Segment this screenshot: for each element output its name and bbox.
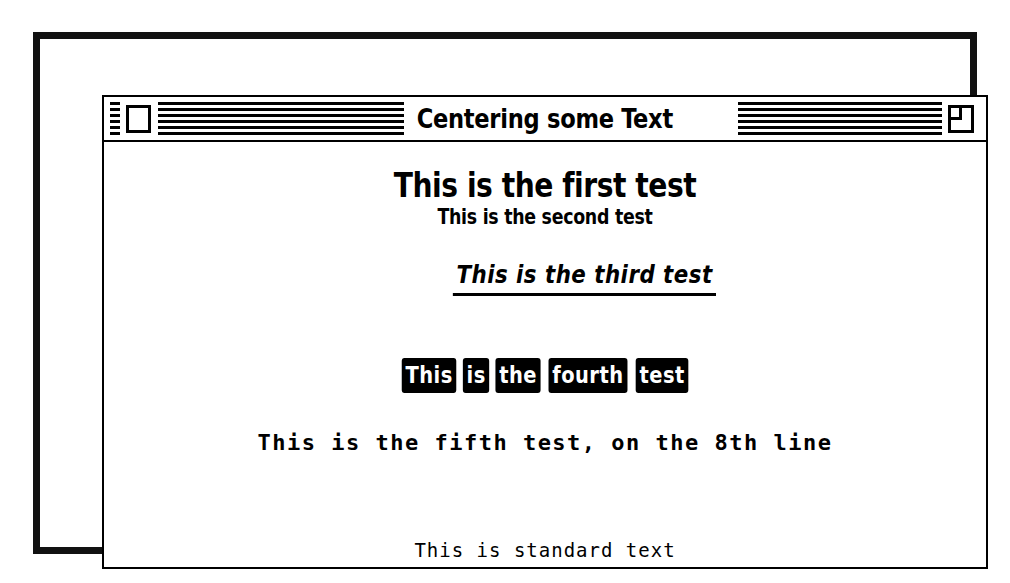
window-title: Centering some Text	[104, 103, 986, 135]
mac-window: Centering some Text This is the first te…	[102, 95, 988, 569]
document-line-third: This is the third test	[126, 230, 964, 326]
document-line-fourth-word: fourth	[549, 358, 628, 393]
document-blank-line-6	[104, 457, 986, 485]
document-blank-line-7	[104, 485, 986, 513]
document-line-fourth: Thisisthefourthtest	[104, 358, 986, 393]
document-line-fourth-word: This	[401, 358, 456, 393]
window-title-text: Centering some Text	[408, 103, 681, 135]
document-line-fourth-word: the	[496, 358, 541, 393]
scanned-page: Centering some Text This is the first te…	[0, 0, 1010, 583]
document-line-standard: This is standard text	[104, 537, 986, 563]
document-line-first: This is the first test	[139, 166, 950, 204]
document-line-fourth-word: is	[463, 358, 490, 393]
window-title-bar[interactable]: Centering some Text	[104, 97, 986, 142]
document-line-fifth: This is the fifth test, on the 8th line	[104, 429, 986, 457]
document-line-fourth-word: test	[636, 358, 689, 393]
document-content-area[interactable]: This is the first test This is the secon…	[104, 142, 986, 567]
document-line-third-text: This is the third test	[453, 260, 717, 296]
figure-border: Centering some Text This is the first te…	[33, 32, 977, 554]
document-line-second: This is the second test	[139, 204, 950, 230]
